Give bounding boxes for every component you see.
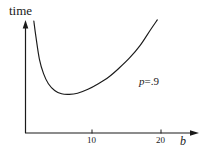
figure-canvas: time b 10 20 p=.9 [0, 0, 209, 155]
x-axis-arrowhead [190, 130, 199, 136]
x-axis-title: b [180, 135, 186, 147]
y-axis-title: time [9, 4, 32, 17]
x-tick-label-10: 10 [87, 136, 96, 145]
y-axis-arrowhead [23, 20, 29, 29]
parameter-value: =.9 [145, 75, 159, 87]
parameter-annotation: p=.9 [139, 76, 159, 87]
x-tick-label-20: 20 [156, 136, 165, 145]
plot-area [0, 0, 209, 155]
